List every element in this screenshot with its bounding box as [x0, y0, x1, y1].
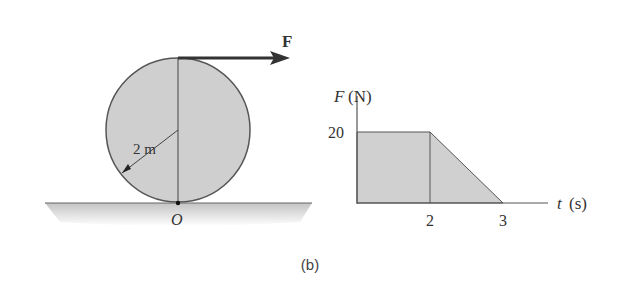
- radius-label: 2 m: [133, 141, 156, 157]
- force-label: F: [282, 32, 292, 51]
- point-o-label: O: [171, 211, 183, 228]
- figure-caption: (b): [0, 256, 620, 273]
- y-axis-unit: (N): [348, 87, 372, 106]
- x-axis-unit: (s): [569, 194, 587, 213]
- force-time-graph: [357, 96, 548, 204]
- x-axis-var: t: [557, 194, 563, 213]
- x-tick-2: 2: [426, 212, 434, 229]
- y-axis-var: F: [333, 87, 345, 106]
- x-tick-3: 3: [499, 212, 507, 229]
- y-tick-20: 20: [328, 124, 344, 141]
- disk: [106, 58, 250, 205]
- contact-point-marker: [176, 201, 180, 205]
- figure-canvas: F 2 m O F (N) 20 2 3 t (s): [0, 0, 620, 299]
